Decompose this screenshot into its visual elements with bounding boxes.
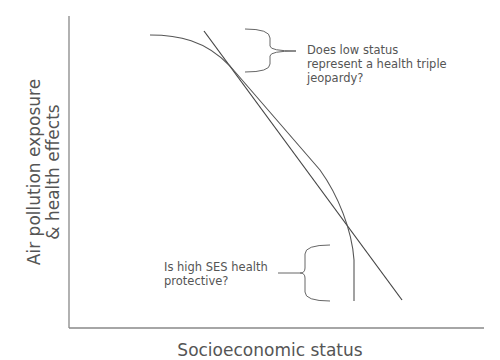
y-axis-label-line1: Air pollution exposure	[25, 62, 44, 282]
annotation-line: jeopardy?	[307, 71, 497, 85]
annotation-line: represent a health triple	[307, 57, 497, 71]
annotation-line: Is high SES health	[164, 260, 294, 274]
annotation-low-status: Does low status represent a health tripl…	[307, 43, 497, 85]
y-axis-label-line2: & health effects	[44, 62, 63, 282]
upper-brace	[245, 29, 296, 72]
annotation-high-ses: Is high SES health protective?	[164, 260, 294, 288]
annotation-line: protective?	[164, 274, 294, 288]
lower-brace	[300, 245, 330, 301]
y-axis-label: Air pollution exposure & health effects	[25, 62, 63, 282]
annotation-line: Does low status	[307, 43, 497, 57]
x-axis-label: Socioeconomic status	[177, 340, 362, 360]
